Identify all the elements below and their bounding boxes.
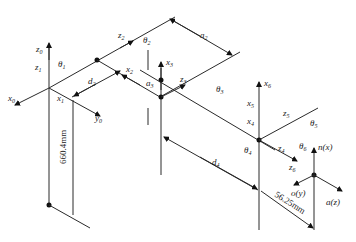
label-x6: x6 bbox=[263, 78, 271, 89]
x0-arrow bbox=[15, 88, 49, 105]
label-z1: z1 bbox=[34, 62, 42, 73]
label-z4: z4 bbox=[277, 143, 285, 154]
label-x0: x0 bbox=[7, 93, 15, 104]
a-arrow bbox=[314, 175, 342, 191]
label-theta2: θ2 bbox=[143, 35, 150, 46]
label-n: n(x) bbox=[318, 142, 333, 152]
label-x5: x5 bbox=[246, 98, 254, 109]
label-z5: z5 bbox=[282, 108, 290, 119]
diagram-svg: z0 z1 θ1 x0 x1 y0 d2 z2 θ2 x2 a2 x3 a3 z… bbox=[0, 0, 356, 242]
label-x1: x1 bbox=[56, 93, 64, 104]
z2-arrow bbox=[120, 41, 133, 48]
label-theta4: θ4 bbox=[244, 145, 251, 156]
elbow-line bbox=[160, 52, 240, 97]
label-x2: x2 bbox=[125, 64, 133, 75]
forearm-line bbox=[140, 70, 275, 150]
label-a3: a3 bbox=[146, 78, 154, 89]
d4-dim-back bbox=[200, 157, 257, 189]
label-o: o(y) bbox=[291, 188, 306, 198]
a2-dim-back bbox=[170, 19, 200, 36]
label-z0: z0 bbox=[35, 44, 43, 55]
label-d2: d2 bbox=[88, 76, 96, 87]
label-a: a(z) bbox=[326, 197, 340, 207]
label-theta5: θ5 bbox=[310, 118, 317, 129]
x2-arrow bbox=[122, 75, 140, 85]
o-arrow bbox=[294, 175, 314, 185]
z3-arrow bbox=[161, 85, 185, 97]
label-x3: x3 bbox=[165, 57, 173, 68]
label-y0: y0 bbox=[94, 113, 102, 124]
label-theta1: θ1 bbox=[58, 59, 65, 70]
base-ground-line bbox=[49, 205, 90, 228]
label-d4: d4 bbox=[212, 157, 220, 168]
label-z6: z6 bbox=[288, 162, 296, 173]
label-a2: a2 bbox=[200, 30, 208, 41]
label-z3: z3 bbox=[179, 74, 187, 85]
label-x4: x4 bbox=[246, 116, 254, 127]
robot-frame-diagram: z0 z1 θ1 x0 x1 y0 d2 z2 θ2 x2 a2 x3 a3 z… bbox=[0, 0, 356, 242]
label-base-height: 660.4mm bbox=[58, 130, 68, 164]
label-z2: z2 bbox=[117, 30, 125, 41]
label-theta3: θ3 bbox=[216, 84, 223, 95]
label-theta6: θ6 bbox=[299, 141, 306, 152]
shoulder-line bbox=[49, 17, 175, 88]
